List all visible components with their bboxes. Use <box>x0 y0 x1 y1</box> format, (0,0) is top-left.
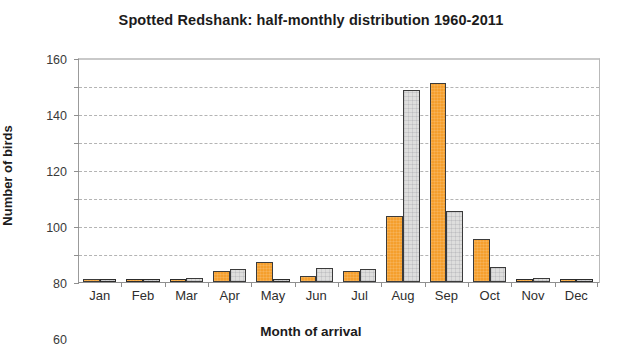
y-axis-tick: 0 <box>74 283 79 284</box>
bar <box>230 269 247 282</box>
y-axis-tick-label: 140 <box>46 109 67 123</box>
bar <box>533 278 550 282</box>
bar-group <box>121 58 164 282</box>
bar <box>126 279 143 282</box>
x-axis-tick-label: Apr <box>208 288 251 303</box>
x-axis-tick <box>338 282 339 287</box>
bar-group <box>425 58 468 282</box>
x-axis-tick <box>121 282 122 287</box>
x-axis-title: Month of arrival <box>0 324 622 339</box>
bar <box>273 279 290 282</box>
bars-layer <box>78 58 598 282</box>
bar <box>256 262 273 282</box>
bar <box>403 90 420 282</box>
x-axis-tick-label: Mar <box>165 288 208 303</box>
bar <box>473 239 490 282</box>
x-axis-tick <box>597 282 598 287</box>
bar <box>186 278 203 282</box>
bar-group <box>208 58 251 282</box>
bar <box>446 211 463 282</box>
chart-figure: Spotted Redshank: half-monthly distribut… <box>0 0 622 359</box>
bar <box>560 279 577 282</box>
bar <box>143 279 160 282</box>
bar-group <box>251 58 294 282</box>
x-axis-tick <box>425 282 426 287</box>
x-axis-tick <box>511 282 512 287</box>
x-axis-tick <box>165 282 166 287</box>
x-axis-tick <box>555 282 556 287</box>
bar <box>100 279 117 282</box>
x-axis-tick <box>208 282 209 287</box>
x-axis-tick-label: Jan <box>78 288 121 303</box>
y-axis-tick-label: 160 <box>46 53 67 67</box>
x-axis-tick <box>381 282 382 287</box>
bar <box>170 279 187 282</box>
bar-group <box>555 58 598 282</box>
x-axis-tick-labels: JanFebMarAprMayJunJulAugSepOctNovDec <box>78 288 598 308</box>
bar-group <box>165 58 208 282</box>
bar <box>516 279 533 282</box>
bar-group <box>338 58 381 282</box>
bar <box>576 279 593 282</box>
x-axis-tick <box>295 282 296 287</box>
x-axis-tick-label: Dec <box>555 288 598 303</box>
bar <box>386 216 403 282</box>
bar-group <box>78 58 121 282</box>
bar <box>360 269 377 282</box>
y-axis-tick-label: 100 <box>46 221 67 235</box>
y-axis-tick-label: 120 <box>46 165 67 179</box>
x-axis-tick-label: Aug <box>381 288 424 303</box>
x-axis-tick-label: Oct <box>468 288 511 303</box>
bar <box>213 271 230 282</box>
x-axis-tick-label: Jul <box>338 288 381 303</box>
bar <box>300 276 317 282</box>
x-axis-tick <box>251 282 252 287</box>
chart-title: Spotted Redshank: half-monthly distribut… <box>0 12 622 28</box>
x-axis-tick-label: May <box>251 288 294 303</box>
bar-group <box>295 58 338 282</box>
x-axis-tick-label: Nov <box>511 288 554 303</box>
y-axis-title: Number of birds <box>0 86 15 266</box>
x-axis-tick-label: Sep <box>425 288 468 303</box>
bar-group <box>468 58 511 282</box>
x-axis-tick-label: Jun <box>295 288 338 303</box>
bar <box>430 83 447 282</box>
bar <box>343 271 360 282</box>
bar <box>83 279 100 282</box>
bar <box>490 267 507 282</box>
x-axis-tick-label: Feb <box>121 288 164 303</box>
bar-group <box>381 58 424 282</box>
x-axis-tick <box>468 282 469 287</box>
bar-group <box>511 58 554 282</box>
bar <box>316 268 333 282</box>
y-axis-tick-label: 80 <box>53 277 67 291</box>
